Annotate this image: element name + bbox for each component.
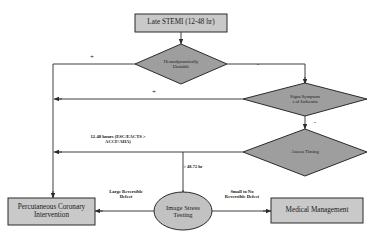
node-signs-symptoms-ischemia[interactable]: [243, 83, 367, 116]
edge-label-small-no-reversible-defect: Small to No Reversible Defect: [209, 189, 275, 199]
edge-label-timing-late: > 48-72 hr: [165, 165, 221, 170]
node-hemodynamically-unstable[interactable]: [135, 44, 227, 84]
node-image-stress-testing[interactable]: [154, 192, 212, 230]
node-medical-management[interactable]: [271, 198, 363, 223]
edge-label-ischemia-positive: +: [149, 88, 159, 96]
edge-label-unstable-negative: -: [253, 60, 263, 68]
edge-label-large-reversible-defect: Large Reversible Defect: [93, 189, 159, 199]
edge-unstable-negative: [227, 64, 305, 83]
flowchart-canvas: Late STEMI (12-48 hr) Hemodynamically Un…: [0, 0, 371, 235]
edge-unstable-positive: [53, 64, 136, 197]
node-pci[interactable]: [8, 198, 95, 225]
node-assess-timing[interactable]: [243, 129, 367, 176]
edge-label-ischemia-negative: -: [310, 118, 320, 126]
edge-label-timing-early: 12-48 hours (ESC/EACTS > ACCF/AHA): [72, 134, 164, 144]
edge-label-unstable-positive: +: [87, 53, 97, 61]
node-late-stemi[interactable]: [135, 14, 227, 32]
